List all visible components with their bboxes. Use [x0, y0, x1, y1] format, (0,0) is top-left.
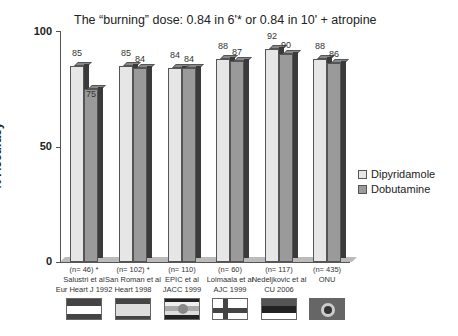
y-tick-0: 0	[22, 255, 52, 267]
y-axis	[60, 31, 61, 263]
value-label-dobutamine: 87	[227, 47, 247, 57]
multinational-flag-icon	[164, 298, 200, 320]
bar-side	[341, 61, 346, 258]
bar-dobutamine	[327, 63, 341, 262]
bar-top	[186, 64, 204, 68]
finland-flag-icon	[212, 298, 248, 320]
value-label-dobutamine: 84	[179, 54, 199, 64]
legend-swatch-dipyridamole	[358, 170, 367, 179]
bar-top	[283, 50, 301, 54]
study-caption: (n= 435)ONU	[295, 265, 359, 285]
spain-flag-icon	[115, 298, 151, 320]
y-tick-100: 100	[22, 25, 52, 37]
legend-item-dipyridamole: Dipyridamole	[358, 168, 435, 180]
tick-mark-50	[56, 147, 60, 148]
legend-item-dobutamine: Dobutamine	[358, 183, 435, 195]
value-label-dobutamine: 84	[130, 54, 150, 64]
x-axis	[60, 262, 350, 263]
bar-side	[147, 66, 152, 258]
legend-swatch-dobutamine	[358, 185, 367, 194]
bar-dobutamine	[182, 68, 196, 262]
study-author: ONU	[295, 275, 359, 285]
serbia-flag-icon	[261, 298, 297, 320]
bar-side	[244, 59, 249, 258]
y-axis-label: % Accuracy	[0, 122, 4, 190]
value-label-dobutamine: 75	[81, 89, 101, 99]
tick-mark-100	[56, 31, 60, 32]
bar-dipyridamole	[265, 49, 279, 262]
bar-dobutamine	[279, 54, 293, 262]
bar-top	[331, 59, 349, 63]
bar-dipyridamole	[119, 66, 133, 262]
legend-label-dobutamine: Dobutamine	[371, 183, 430, 195]
bar-side	[196, 66, 201, 258]
bar-side	[98, 87, 103, 258]
un-flag-icon	[309, 298, 345, 320]
value-label-dipyridamole: 85	[67, 48, 87, 58]
study-sample-size: (n= 435)	[295, 265, 359, 275]
bar-side	[293, 52, 298, 258]
bar-dobutamine	[230, 61, 244, 262]
bar-dipyridamole	[216, 59, 230, 262]
bar-dipyridamole	[313, 59, 327, 262]
legend-label-dipyridamole: Dipyridamole	[371, 168, 435, 180]
bar-dobutamine	[84, 89, 98, 262]
study-reference: CU 2006	[247, 285, 311, 295]
legend: Dipyridamole Dobutamine	[358, 168, 435, 198]
bar-dobutamine	[133, 68, 147, 262]
value-label-dobutamine: 86	[324, 49, 344, 59]
chart-title: The “burning” dose: 0.84 in 6'* or 0.84 …	[74, 13, 377, 27]
y-tick-50: 50	[22, 140, 52, 152]
bar-top	[137, 64, 155, 68]
bar-dipyridamole	[168, 68, 182, 262]
austria-flag-icon	[66, 298, 102, 320]
bar-top	[74, 62, 92, 66]
value-label-dobutamine: 90	[276, 40, 296, 50]
bar-top	[234, 57, 252, 61]
